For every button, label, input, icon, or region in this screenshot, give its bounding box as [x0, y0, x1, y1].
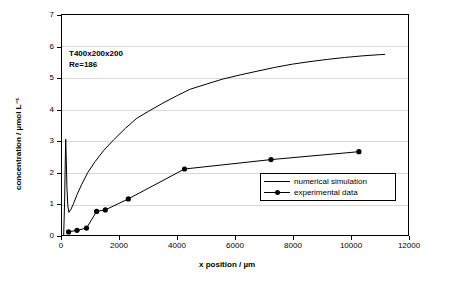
x-tick-mark [293, 236, 294, 240]
y-tick-label-4: 4 [38, 105, 54, 114]
legend-item-numerical-simulation: numerical simulation [261, 176, 395, 187]
y-tick-label-3: 3 [38, 136, 54, 145]
legend-line-icon [264, 176, 290, 187]
x-tick-mark [61, 236, 62, 240]
x-axis-label: x position / µm [199, 260, 255, 269]
y-tick-label-5: 5 [38, 73, 54, 82]
numerical-simulation-line [64, 54, 385, 235]
x-tick-label-8000: 8000 [278, 241, 308, 250]
x-tick-mark [177, 236, 178, 240]
plot-area: T400x200x200 Re=186 numerical simulation… [61, 14, 409, 236]
x-tick-mark [235, 236, 236, 240]
x-tick-label-4000: 4000 [162, 241, 192, 250]
x-tick-mark [409, 236, 410, 240]
y-tick-label-7: 7 [38, 10, 54, 19]
y-axis-label: concentration / µmol L⁻¹ [14, 98, 23, 190]
y-tick-label-2: 2 [38, 168, 54, 177]
y-tick-label-0: 0 [38, 231, 54, 240]
x-tick-label-0: 0 [46, 241, 76, 250]
x-tick-label-2000: 2000 [104, 241, 134, 250]
annotation-line-2: Re=186 [69, 59, 123, 70]
x-tick-label-10000: 10000 [336, 241, 366, 250]
x-tick-mark [119, 236, 120, 240]
y-tick-label-1: 1 [38, 199, 54, 208]
annotation-line-1: T400x200x200 [69, 48, 123, 59]
legend: numerical simulation experimental data [260, 173, 396, 201]
legend-label: experimental data [290, 188, 358, 197]
legend-line-marker-icon [264, 187, 290, 198]
x-tick-mark [351, 236, 352, 240]
x-tick-label-12000: 12000 [394, 241, 424, 250]
legend-item-experimental-data: experimental data [261, 187, 395, 198]
chart-container: concentration / µmol L⁻¹ 0 1 2 3 4 5 6 7 [0, 0, 459, 284]
y-tick-label-6: 6 [38, 42, 54, 51]
x-tick-label-6000: 6000 [220, 241, 250, 250]
annotation-block: T400x200x200 Re=186 [69, 48, 123, 70]
legend-label: numerical simulation [290, 177, 367, 186]
